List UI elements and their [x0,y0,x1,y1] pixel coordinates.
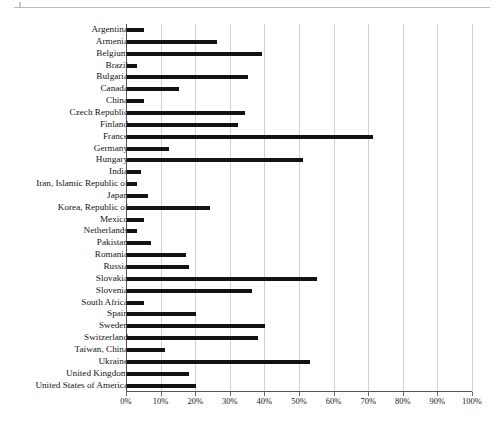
category-label: Switzerland [84,332,128,344]
category-label: United States of America [35,380,128,392]
bar-row: China [0,95,501,107]
bar-row: Hungary [0,154,501,166]
bar-row: Czech Republic [0,107,501,119]
bar [127,253,186,257]
bar [127,111,245,115]
bar-row: Taiwan, China [0,344,501,356]
bar [127,241,151,245]
bar-row: Sweden [0,320,501,332]
category-label: Romania [95,249,128,261]
bar [127,52,262,56]
bar [127,372,189,376]
bar [127,289,252,293]
bar [127,265,189,269]
bar-row: Switzerland [0,332,501,344]
category-label: Sweden [99,320,128,332]
category-label: India [109,166,128,178]
bar [127,360,310,364]
bar [127,147,169,151]
category-label: Hungary [96,154,128,166]
bar-row: Germany [0,143,501,155]
bar-row: Argentina [0,24,501,36]
bar-row: United Kingdom [0,368,501,380]
category-label: Ukraine [98,356,128,368]
category-label: South Africa [81,297,128,309]
bar-row: Slovakia [0,273,501,285]
bar [127,312,196,316]
bar-row: Iran, Islamic Republic of [0,178,501,190]
horizontal-bar-chart: 0%10%20%30%40%50%60%70%80%90%100% Argent… [0,0,501,428]
category-label: France [103,131,128,143]
bar [127,194,148,198]
category-label: Argentina [91,24,128,36]
category-label: Brazil [106,60,128,72]
category-label: Czech Republic [70,107,128,119]
category-label: Taiwan, China [75,344,128,356]
bar-row: Ukraine [0,356,501,368]
bar-row: Belgium [0,48,501,60]
category-label: Netherlands [84,225,128,237]
category-label: Russia [103,261,128,273]
bar [127,170,141,174]
bar-row: Japan [0,190,501,202]
bar-row: Spain [0,308,501,320]
category-label: China [106,95,128,107]
bar [127,218,144,222]
bar-row: France [0,131,501,143]
x-tick-label: 100% [452,396,492,406]
bar-row: Romania [0,249,501,261]
bar [127,28,144,32]
chart-page: 0%10%20%30%40%50%60%70%80%90%100% Argent… [0,0,501,428]
bar [127,158,303,162]
bar-row: United States of America [0,380,501,392]
bar [127,229,137,233]
bar-row: Russia [0,261,501,273]
bar-row: Slovenia [0,285,501,297]
bar [127,206,210,210]
bar [127,384,196,388]
bar-row: Netherlands [0,225,501,237]
category-label: Japan [107,190,128,202]
bar-row: Mexico [0,214,501,226]
bar [127,40,217,44]
category-label: Slovenia [96,285,128,297]
bar [127,324,265,328]
category-label: Iran, Islamic Republic of [36,178,128,190]
category-label: Spain [107,308,128,320]
category-label: United Kingdom [66,368,128,380]
category-label: Mexico [100,214,128,226]
bar-row: Korea, Republic of [0,202,501,214]
category-label: Slovakia [96,273,128,285]
category-label: Finland [100,119,128,131]
bar-row: South Africa [0,297,501,309]
bar [127,87,179,91]
bar [127,277,317,281]
bar [127,182,137,186]
category-label: Bulgaria [96,71,128,83]
bar-row: Bulgaria [0,71,501,83]
category-label: Germany [94,143,128,155]
bar [127,99,144,103]
bar-row: Finland [0,119,501,131]
category-label: Armenia [96,36,128,48]
bar-row: Canada [0,83,501,95]
bar [127,135,373,139]
bar [127,64,137,68]
bar-row: India [0,166,501,178]
bar-row: Pakistan [0,237,501,249]
bar [127,348,165,352]
bar [127,75,248,79]
category-label: Pakistan [97,237,128,249]
bar [127,301,144,305]
bar [127,123,238,127]
bar [127,336,258,340]
category-label: Korea, Republic of [58,202,128,214]
bar-row: Brazil [0,60,501,72]
bar-row: Armenia [0,36,501,48]
category-label: Canada [100,83,128,95]
category-label: Belgium [96,48,128,60]
